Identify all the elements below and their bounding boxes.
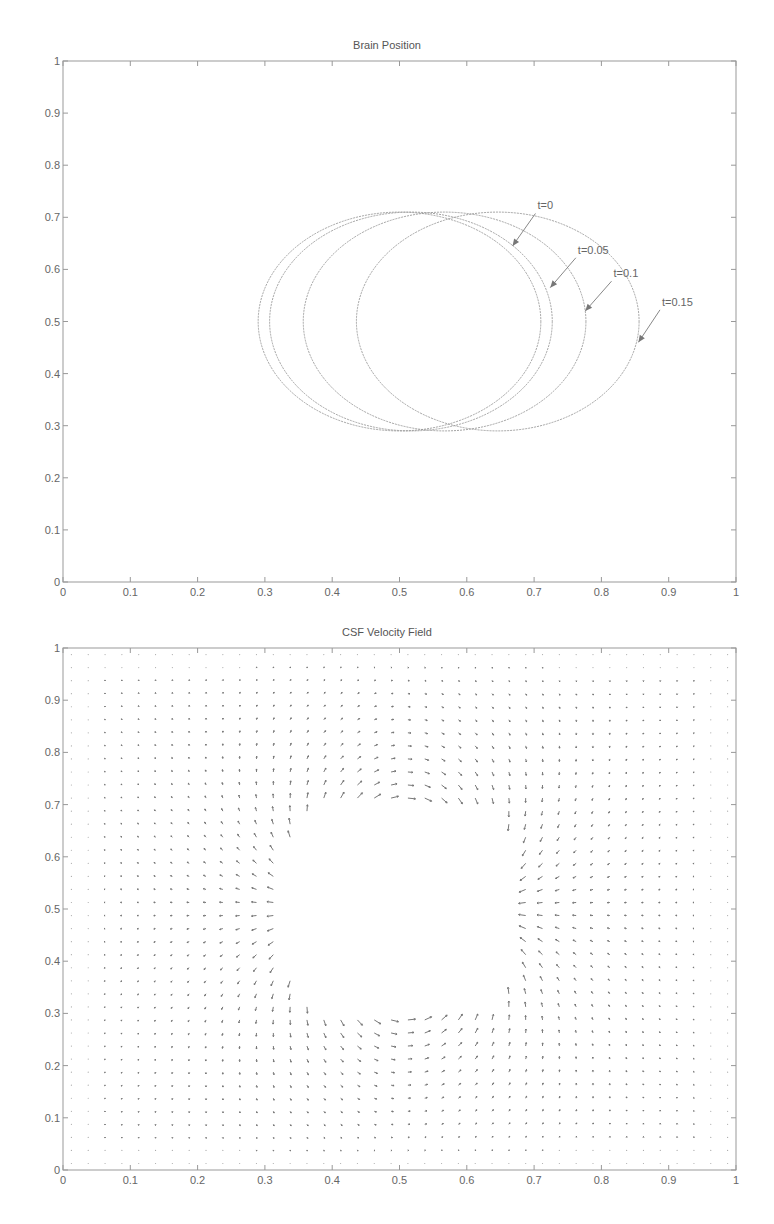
x-tick-label: 0.8 <box>594 1174 609 1186</box>
brain-outline <box>258 212 541 431</box>
x-tick-label: 1 <box>733 1174 739 1186</box>
x-tick-label: 0.1 <box>123 586 138 598</box>
time-annotation: t=0.1 <box>614 267 639 279</box>
y-tick-label: 0.9 <box>45 107 60 119</box>
velocity-vector <box>374 794 380 798</box>
y-tick-label: 0.5 <box>45 903 60 915</box>
x-tick-label: 0.3 <box>257 586 272 598</box>
y-tick-label: 0.9 <box>45 694 60 706</box>
velocity-vector <box>357 793 362 798</box>
y-tick-label: 0.4 <box>45 368 60 380</box>
x-tick-label: 0.1 <box>123 1174 138 1186</box>
csf-velocity-figure: CSF Velocity Field 00.10.20.30.40.50.60.… <box>0 612 774 1224</box>
x-tick-label: 0.5 <box>392 586 407 598</box>
arrow-head-icon <box>638 335 644 342</box>
velocity-vector <box>442 798 448 803</box>
brain-position-plot: 00.10.20.30.40.50.60.70.80.9100.10.20.30… <box>0 0 774 612</box>
time-annotation: t=0 <box>537 199 553 211</box>
y-tick-label: 0.3 <box>45 420 60 432</box>
arrow-head-icon <box>513 239 519 246</box>
velocity-vector <box>520 937 526 941</box>
time-annotation: t=0.05 <box>578 244 609 256</box>
x-tick-label: 0.3 <box>257 1174 272 1186</box>
x-tick-label: 0.7 <box>526 586 541 598</box>
y-tick-label: 0.2 <box>45 1060 60 1072</box>
y-tick-label: 0 <box>54 576 60 588</box>
x-tick-label: 0.2 <box>190 586 205 598</box>
x-tick-label: 0.4 <box>325 586 340 598</box>
x-tick-label: 0.9 <box>661 586 676 598</box>
x-tick-label: 0 <box>60 586 66 598</box>
y-tick-label: 0.3 <box>45 1007 60 1019</box>
x-tick-label: 0.9 <box>661 1174 676 1186</box>
velocity-vector <box>442 1015 448 1020</box>
velocity-vector <box>458 798 462 804</box>
csf-velocity-plot: 00.10.20.30.40.50.60.70.80.9100.10.20.30… <box>0 612 774 1224</box>
y-tick-label: 0.4 <box>45 955 60 967</box>
y-tick-label: 0.1 <box>45 524 60 536</box>
y-tick-label: 0.6 <box>45 263 60 275</box>
velocity-vector <box>520 876 526 880</box>
x-tick-label: 0.2 <box>190 1174 205 1186</box>
y-tick-label: 0.5 <box>45 316 60 328</box>
brain-outline <box>303 212 586 431</box>
x-tick-label: 0.7 <box>526 1174 541 1186</box>
time-annotation: t=0.15 <box>662 296 693 308</box>
y-tick-label: 0.8 <box>45 746 60 758</box>
x-tick-label: 0.8 <box>594 586 609 598</box>
velocity-vector <box>357 1020 362 1025</box>
x-tick-label: 0.4 <box>325 1174 340 1186</box>
velocity-vector <box>425 798 432 801</box>
y-tick-label: 0.6 <box>45 851 60 863</box>
brain-outline <box>270 212 553 431</box>
y-tick-label: 0.2 <box>45 472 60 484</box>
x-tick-label: 0 <box>60 1174 66 1186</box>
plot-frame <box>63 61 736 582</box>
x-tick-label: 0.6 <box>459 1174 474 1186</box>
brain-position-figure: Brain Position 00.10.20.30.40.50.60.70.8… <box>0 0 774 612</box>
velocity-vector <box>374 1020 380 1024</box>
velocity-vector <box>425 1017 432 1020</box>
x-tick-label: 1 <box>733 586 739 598</box>
plot-frame <box>63 648 736 1170</box>
y-tick-label: 0.7 <box>45 799 60 811</box>
y-tick-label: 0.1 <box>45 1112 60 1124</box>
y-tick-label: 0.7 <box>45 211 60 223</box>
y-tick-label: 0.8 <box>45 159 60 171</box>
y-tick-label: 1 <box>54 55 60 67</box>
x-tick-label: 0.6 <box>459 586 474 598</box>
velocity-vector <box>458 1014 462 1020</box>
y-tick-label: 1 <box>54 642 60 654</box>
x-tick-label: 0.5 <box>392 1174 407 1186</box>
y-tick-label: 0 <box>54 1164 60 1176</box>
